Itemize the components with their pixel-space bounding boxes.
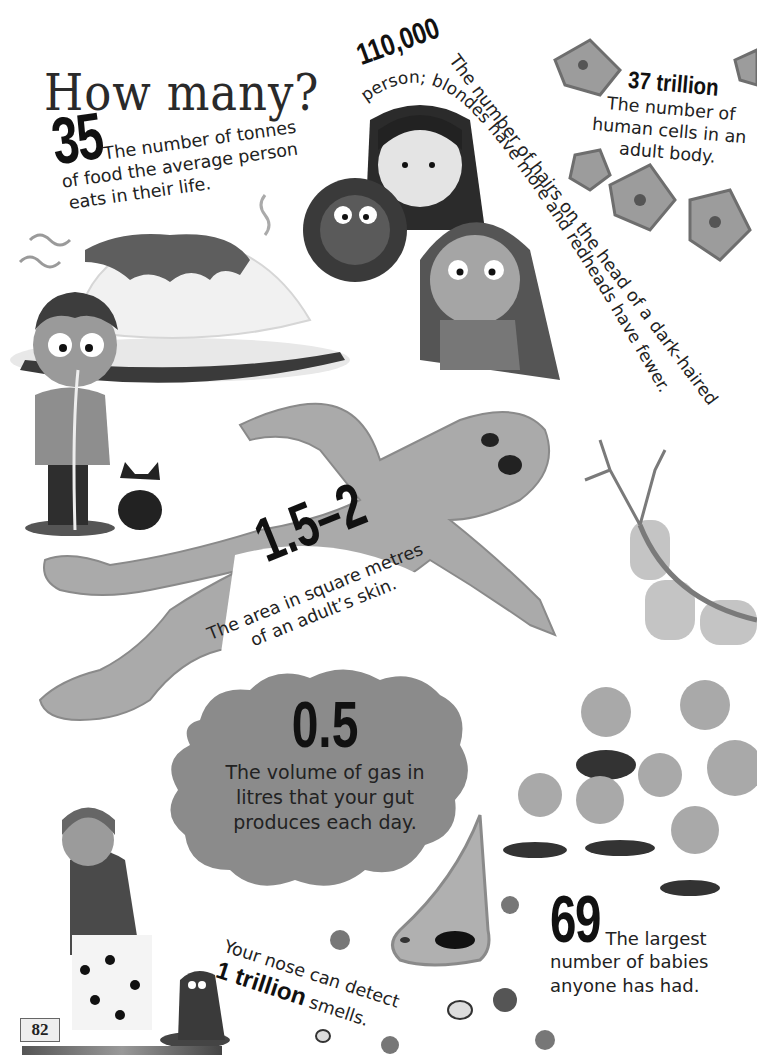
- bottom-edge-strip: [22, 1046, 222, 1055]
- fact-gas-number: 0.5: [235, 690, 415, 760]
- fact-babies-line3: anyone has had.: [550, 974, 750, 998]
- babies-illustration: [503, 680, 757, 896]
- fact-babies-line1: The largest: [605, 928, 706, 950]
- fact-cells: 37 trillion The number of human cells in…: [577, 62, 757, 171]
- fact-gas-line1: The volume of gas in: [205, 760, 445, 785]
- fact-gas-line3: produces each day.: [205, 810, 445, 835]
- fact-gas-line2: litres that your gut: [205, 785, 445, 810]
- fact-babies-number: 69: [550, 888, 600, 950]
- fact-gas: 0.5 The volume of gas in litres that you…: [205, 690, 445, 835]
- page-number: 82: [20, 1018, 60, 1042]
- fact-babies: 69 The largest number of babies anyone h…: [550, 888, 750, 998]
